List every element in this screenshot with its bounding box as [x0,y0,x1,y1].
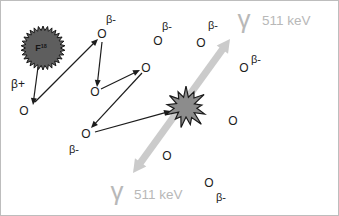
electron-symbol-1: O [19,104,28,118]
gamma-energy-label-bottom: 511 keV [134,187,183,202]
positron-path-arrow-1 [34,67,38,100]
gamma-symbol-top: γ [238,4,251,34]
electron-symbol-5: O [81,127,90,141]
positron-path-arrow-3 [98,42,102,82]
electron-symbol-2: O [97,27,106,41]
gamma-energy-label-top: 511 keV [262,13,311,28]
beta-minus-label-7: β- [208,19,218,31]
beta-minus-label-6: β- [162,20,172,32]
pet-annihilation-diagram: F18β+OOβ-OOOβ-Oβ-Oβ-Oβ-OOOβ-γ511 keVγ511… [0,0,339,216]
electron-symbol-11: O [204,176,213,190]
electron-symbol-8: O [239,61,248,75]
positron-path-arrow-4 [101,72,136,89]
gamma-symbol-bottom: γ [111,176,124,206]
electron-symbol-6: O [153,34,162,48]
beta-minus-label-11: β- [216,191,226,203]
electron-symbol-3: O [90,85,99,99]
electron-symbol-7: O [196,36,205,50]
beta-minus-label-5: β- [69,143,79,155]
diagram-canvas: F18β+OOβ-OOOβ-Oβ-Oβ-Oβ-OOOβ-γ511 keVγ511… [1,1,338,215]
electron-symbol-10: O [162,149,171,163]
beta-minus-label-8: β- [251,53,261,65]
electron-symbol-9: O [228,114,237,128]
electron-symbol-4: O [141,61,150,75]
beta-minus-label-2: β- [106,13,116,25]
beta-plus-label: β+ [11,77,25,91]
positron-path-arrow-6 [95,112,166,132]
